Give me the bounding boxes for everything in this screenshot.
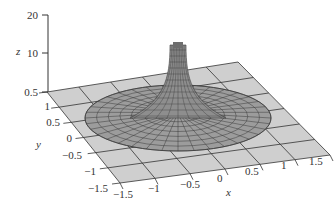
y-tick-1: 1 <box>45 100 51 112</box>
y-tick-0: 0 <box>67 132 73 144</box>
x-tick-0-5: 0.5 <box>245 165 259 177</box>
y-tick-0-5: 0.5 <box>46 116 60 128</box>
z-axis: 20 10 0.5 z <box>15 9 48 98</box>
x-tick-1-5: 1.5 <box>309 155 323 167</box>
x-tick-0: 0 <box>217 172 223 184</box>
x-axis-label: x <box>225 186 231 198</box>
y-axis-label: y <box>35 138 41 150</box>
x-tick-m1: −1 <box>148 182 160 194</box>
surface-plot: 20 10 0.5 z 1 0.5 0 −0.5 −1 −1.5 y −1.5 … <box>0 0 334 210</box>
x-tick-m1-5: −1.5 <box>113 188 133 200</box>
z-tick-10: 10 <box>27 47 39 59</box>
z-tick-0-5: 0.5 <box>24 86 38 98</box>
y-tick-m1: −1 <box>84 165 96 177</box>
x-tick-1: 1 <box>281 159 287 171</box>
z-tick-20: 20 <box>27 9 39 21</box>
z-axis-label: z <box>15 45 21 57</box>
funnel-surface <box>85 42 271 151</box>
y-tick-m1-5: −1.5 <box>88 182 108 194</box>
x-tick-m0-5: −0.5 <box>180 178 200 190</box>
y-tick-m0-5: −0.5 <box>62 149 82 161</box>
